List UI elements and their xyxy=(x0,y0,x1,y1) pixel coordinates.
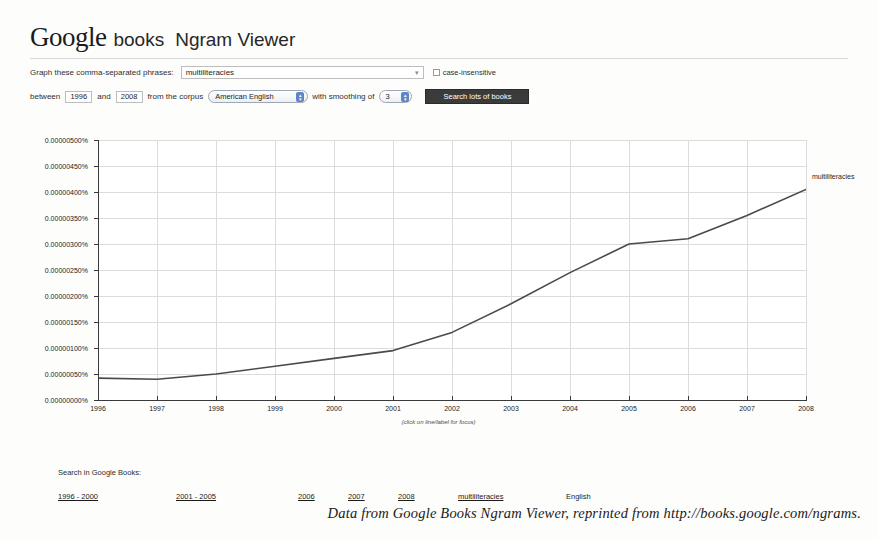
y-axis-tick-label: 0.00000450% xyxy=(0,163,88,170)
phrases-input-value: multiliteracies xyxy=(186,68,234,77)
case-insensitive-checkbox[interactable] xyxy=(433,69,440,76)
search-button[interactable]: Search lots of books xyxy=(425,89,529,104)
y-axis-tick-mark xyxy=(94,348,98,349)
end-year-input[interactable]: 2008 xyxy=(116,91,143,103)
chevron-down-icon[interactable]: ▾ xyxy=(415,69,419,76)
y-axis xyxy=(98,140,99,401)
range-row: between 1996 and 2008 from the corpus Am… xyxy=(30,89,529,104)
footer-link[interactable]: 2008 xyxy=(398,492,415,501)
y-axis-tick-mark xyxy=(94,374,98,375)
smoothing-select[interactable]: 3 ▴▾ xyxy=(379,90,412,103)
case-insensitive-label: case-insensitive xyxy=(443,68,496,77)
x-axis-tick-label: 2003 xyxy=(503,405,519,412)
x-axis-tick-label: 2002 xyxy=(444,405,460,412)
x-axis-tick-mark xyxy=(688,396,689,401)
phrases-input[interactable]: multiliteracies ▾ xyxy=(181,66,424,79)
x-axis-tick-mark xyxy=(334,396,335,401)
x-axis-tick-label: 1998 xyxy=(208,405,224,412)
plot-area[interactable] xyxy=(98,140,806,400)
x-axis-tick-mark xyxy=(629,396,630,401)
page-title: Ngram Viewer xyxy=(175,29,295,51)
footer-language-label: English xyxy=(566,492,591,501)
footer-link[interactable]: 2001 - 2005 xyxy=(176,492,216,501)
y-axis-tick-mark xyxy=(94,140,98,141)
footer-link[interactable]: multiliteracies xyxy=(458,492,503,501)
ngram-chart: 0.00000000%0.00000050%0.00000100%0.00000… xyxy=(0,125,877,425)
x-axis-tick-label: 2001 xyxy=(385,405,401,412)
search-in-google-books-label: Search in Google Books: xyxy=(58,468,141,477)
corpus-select[interactable]: American English ▴▾ xyxy=(208,90,308,103)
x-axis-tick-label: 2005 xyxy=(621,405,637,412)
y-axis-tick-mark xyxy=(94,218,98,219)
y-axis-tick-mark xyxy=(94,244,98,245)
x-axis-tick-mark xyxy=(570,396,571,401)
x-axis-tick-mark xyxy=(747,396,748,401)
smoothing-select-value: 3 xyxy=(385,92,389,101)
x-axis-tick-label: 2007 xyxy=(739,405,755,412)
spinner-arrows-icon[interactable]: ▴▾ xyxy=(401,92,409,102)
y-axis-tick-label: 0.00000150% xyxy=(0,319,88,326)
y-axis-tick-label: 0.00000000% xyxy=(0,397,88,404)
smoothing-label: with smoothing of xyxy=(312,92,374,101)
y-axis-tick-label: 0.00000300% xyxy=(0,241,88,248)
x-axis-tick-mark xyxy=(275,396,276,401)
google-logo: Google xyxy=(30,22,106,53)
header-divider xyxy=(30,58,848,59)
spinner-arrows-icon[interactable]: ▴▾ xyxy=(296,92,304,102)
y-axis-tick-label: 0.00000050% xyxy=(0,371,88,378)
x-axis-tick-label: 2008 xyxy=(798,405,814,412)
phrases-label: Graph these comma-separated phrases: xyxy=(30,68,174,77)
case-insensitive-control[interactable]: case-insensitive xyxy=(433,68,496,77)
corpus-select-value: American English xyxy=(215,92,273,101)
x-axis-tick-label: 2000 xyxy=(326,405,342,412)
footer-link[interactable]: 2006 xyxy=(298,492,315,501)
footer-links: 1996 - 20002001 - 2005200620072008multil… xyxy=(58,492,578,504)
and-label: and xyxy=(97,92,110,101)
books-wordmark: books xyxy=(113,29,164,51)
ngram-viewer-page: Google books Ngram Viewer Graph these co… xyxy=(0,0,877,539)
chart-hint: (click on line/label for focus) xyxy=(0,419,877,425)
series-line-multiliteracies[interactable] xyxy=(98,140,806,400)
y-axis-tick-label: 0.00000200% xyxy=(0,293,88,300)
x-axis-tick-mark xyxy=(216,396,217,401)
x-axis-tick-label: 2006 xyxy=(680,405,696,412)
x-axis-tick-label: 2004 xyxy=(562,405,578,412)
y-axis-tick-mark xyxy=(94,166,98,167)
y-axis-tick-label: 0.00000100% xyxy=(0,345,88,352)
gridline-vertical xyxy=(806,140,807,400)
start-year-input[interactable]: 1996 xyxy=(65,91,92,103)
masthead: Google books Ngram Viewer xyxy=(30,22,295,52)
y-axis-tick-mark xyxy=(94,192,98,193)
y-axis-tick-mark xyxy=(94,322,98,323)
x-axis-tick-mark xyxy=(511,396,512,401)
x-axis-tick-label: 1997 xyxy=(149,405,165,412)
between-label: between xyxy=(30,92,60,101)
x-axis-tick-mark xyxy=(157,396,158,401)
y-axis-tick-label: 0.00000250% xyxy=(0,267,88,274)
y-axis-tick-mark xyxy=(94,270,98,271)
x-axis-tick-mark xyxy=(393,396,394,401)
figure-caption: Data from Google Books Ngram Viewer, rep… xyxy=(296,505,861,522)
y-axis-tick-mark xyxy=(94,296,98,297)
corpus-label: from the corpus xyxy=(148,92,204,101)
footer-link[interactable]: 1996 - 2000 xyxy=(58,492,98,501)
x-axis-tick-mark xyxy=(98,396,99,401)
y-axis-tick-label: 0.00000400% xyxy=(0,189,88,196)
series-label-multiliteracies[interactable]: multiliteracies xyxy=(812,173,854,180)
y-axis-tick-label: 0.00000500% xyxy=(0,137,88,144)
x-axis-tick-mark xyxy=(806,396,807,401)
y-axis-tick-label: 0.00000350% xyxy=(0,215,88,222)
phrases-row: Graph these comma-separated phrases: mul… xyxy=(30,66,496,79)
x-axis-tick-label: 1996 xyxy=(90,405,106,412)
footer-link[interactable]: 2007 xyxy=(348,492,365,501)
x-axis-tick-label: 1999 xyxy=(267,405,283,412)
x-axis-tick-mark xyxy=(452,396,453,401)
